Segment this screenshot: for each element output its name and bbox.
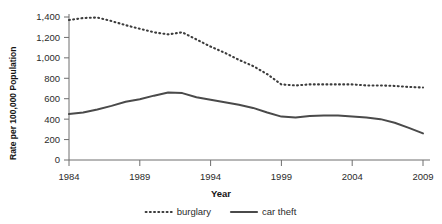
y-tick-label: 1,200 [36,32,60,43]
y-axis-tick-group: 02004006008001,0001,2001,400 [36,11,69,165]
legend-label-car-theft: car theft [262,206,297,217]
x-tick-label: 1994 [200,171,221,182]
y-axis-title: Rate per 100,000 Population [8,47,18,160]
x-tick-label: 2004 [342,171,363,182]
y-tick-label: 600 [44,93,60,104]
chart-legend: burglarycar theft [146,206,297,217]
y-tick-label: 0 [55,154,60,165]
y-tick-label: 400 [44,114,60,125]
series-group [69,18,423,134]
legend-label-burglary: burglary [177,206,212,217]
x-tick-label: 1989 [129,171,150,182]
series-line-burglary [69,18,423,88]
x-tick-label: 1984 [58,171,79,182]
y-tick-label: 800 [44,73,60,84]
y-axis-title-group: Rate per 100,000 Population [8,47,18,160]
y-tick-label: 200 [44,134,60,145]
line-chart: Rate per 100,000 Population 020040060080… [0,0,442,224]
y-tick-label: 1,000 [36,52,60,63]
series-line-car-theft [69,93,423,134]
x-tick-label: 2009 [412,171,433,182]
x-tick-label: 1999 [271,171,292,182]
chart-container: Rate per 100,000 Population 020040060080… [0,0,442,224]
x-axis-tick-group: 198419891994199920042009 [58,160,433,182]
x-axis-title: Year [211,188,231,199]
y-tick-label: 1,400 [36,11,60,22]
